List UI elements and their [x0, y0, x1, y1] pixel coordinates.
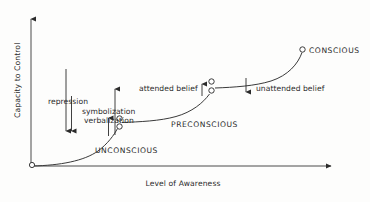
marker-origin	[29, 162, 34, 167]
x-axis-label: Level of Awareness	[145, 180, 220, 189]
marker-preconscious-top	[209, 88, 214, 93]
y-axis-label: Capacity to Control	[14, 43, 23, 118]
region-label-unconscious: UNCONSCIOUS	[95, 147, 158, 156]
curve-markers	[29, 47, 305, 168]
awareness-capacity-diagram: Capacity to Control Level of Awareness U…	[0, 0, 370, 202]
curve-conscious-segment	[215, 53, 302, 89]
region-label-preconscious: PRECONSCIOUS	[171, 121, 238, 130]
marker-conscious-top	[300, 47, 305, 52]
region-label-conscious: CONSCIOUS	[309, 47, 360, 56]
annotation-attended-belief: attended belief	[139, 85, 198, 94]
marker-conscious-low	[209, 79, 214, 84]
annotation-verbalization: verbalization	[84, 117, 134, 126]
annotation-repression: repression	[48, 98, 88, 107]
annotation-unattended-belief: unattended belief	[256, 85, 324, 94]
